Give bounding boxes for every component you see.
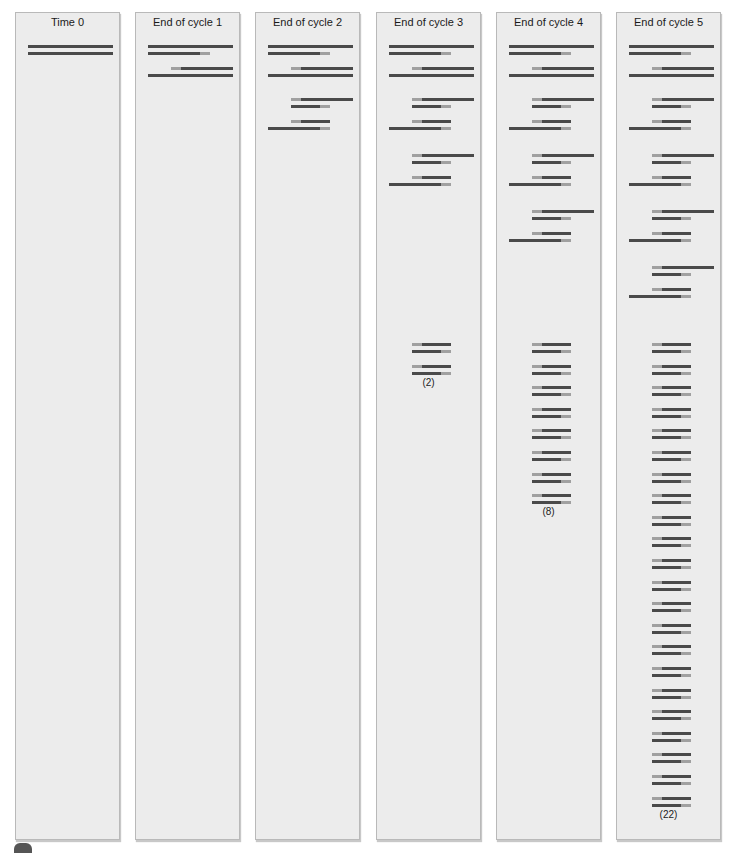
long-product-strand	[629, 183, 691, 186]
primer-segment	[681, 804, 691, 807]
primer-segment	[412, 98, 422, 101]
short-product-strand	[652, 105, 691, 108]
primer-segment	[412, 365, 422, 368]
short-product-strand	[532, 436, 571, 439]
short-product-strand	[652, 436, 691, 439]
cycle-panel: End of cycle 2	[255, 12, 360, 840]
cycle-panel: End of cycle 4(8)	[496, 12, 601, 840]
primer-segment	[681, 717, 691, 720]
short-product-strand	[532, 176, 571, 179]
short-product-strand	[652, 516, 691, 519]
short-product-strand	[652, 732, 691, 735]
long-product-strand	[268, 127, 330, 130]
long-product-strand	[629, 52, 691, 55]
primer-segment	[652, 266, 662, 269]
short-product-strand	[532, 451, 571, 454]
primer-segment	[561, 415, 571, 418]
cycle-panel: Time 0	[15, 12, 120, 840]
primer-segment	[652, 797, 662, 800]
long-product-strand	[389, 183, 451, 186]
short-product-strand	[652, 288, 691, 291]
primer-segment	[412, 67, 422, 70]
primer-segment	[681, 127, 691, 130]
short-product-strand	[412, 105, 451, 108]
primer-segment	[441, 183, 451, 186]
long-product-strand	[652, 67, 714, 70]
primer-segment	[652, 232, 662, 235]
long-product-strand	[291, 67, 353, 70]
short-product-strand	[652, 588, 691, 591]
short-product-count: (8)	[497, 506, 600, 517]
primer-segment	[681, 652, 691, 655]
primer-segment	[412, 154, 422, 157]
long-product-strand	[652, 266, 714, 269]
short-product-strand	[652, 386, 691, 389]
primer-segment	[681, 609, 691, 612]
primer-segment	[441, 105, 451, 108]
original-strand	[509, 45, 594, 48]
long-product-strand	[629, 295, 691, 298]
primer-segment	[532, 67, 542, 70]
long-product-strand	[291, 98, 353, 101]
panel-title: End of cycle 3	[377, 16, 480, 28]
primer-segment	[532, 473, 542, 476]
primer-segment	[681, 458, 691, 461]
short-product-strand	[652, 581, 691, 584]
short-product-strand	[652, 797, 691, 800]
long-product-strand	[532, 67, 594, 70]
long-product-strand	[171, 67, 233, 70]
primer-segment	[532, 408, 542, 411]
primer-segment	[561, 372, 571, 375]
panel-title: End of cycle 5	[617, 16, 720, 28]
primer-segment	[441, 127, 451, 130]
primer-segment	[561, 52, 571, 55]
short-product-strand	[532, 343, 571, 346]
short-product-strand	[532, 365, 571, 368]
primer-segment	[652, 429, 662, 432]
primer-segment	[681, 480, 691, 483]
primer-segment	[652, 154, 662, 157]
primer-segment	[652, 473, 662, 476]
long-product-strand	[652, 154, 714, 157]
short-product-strand	[532, 161, 571, 164]
short-product-strand	[532, 429, 571, 432]
primer-segment	[441, 350, 451, 353]
primer-segment	[532, 98, 542, 101]
original-strand	[268, 74, 353, 77]
primer-segment	[652, 98, 662, 101]
short-product-strand	[652, 566, 691, 569]
primer-segment	[532, 176, 542, 179]
short-product-strand	[412, 365, 451, 368]
primer-segment	[681, 544, 691, 547]
primer-segment	[652, 559, 662, 562]
long-product-strand	[412, 67, 474, 70]
original-strand	[148, 45, 233, 48]
primer-segment	[200, 52, 210, 55]
primer-segment	[412, 176, 422, 179]
primer-segment	[561, 480, 571, 483]
primer-segment	[681, 566, 691, 569]
primer-segment	[681, 161, 691, 164]
short-product-strand	[652, 217, 691, 220]
primer-segment	[652, 451, 662, 454]
original-strand	[509, 74, 594, 77]
primer-segment	[652, 753, 662, 756]
primer-segment	[681, 501, 691, 504]
original-strand	[268, 45, 353, 48]
short-product-strand	[652, 372, 691, 375]
long-product-strand	[509, 52, 571, 55]
short-product-strand	[652, 804, 691, 807]
short-product-strand	[652, 161, 691, 164]
primer-segment	[561, 105, 571, 108]
original-strand	[148, 74, 233, 77]
short-product-strand	[412, 120, 451, 123]
short-product-strand	[532, 386, 571, 389]
short-product-strand	[532, 494, 571, 497]
primer-segment	[532, 154, 542, 157]
short-product-strand	[652, 631, 691, 634]
primer-segment	[320, 52, 330, 55]
short-product-strand	[412, 343, 451, 346]
primer-segment	[171, 67, 181, 70]
short-product-strand	[532, 480, 571, 483]
primer-segment	[681, 350, 691, 353]
